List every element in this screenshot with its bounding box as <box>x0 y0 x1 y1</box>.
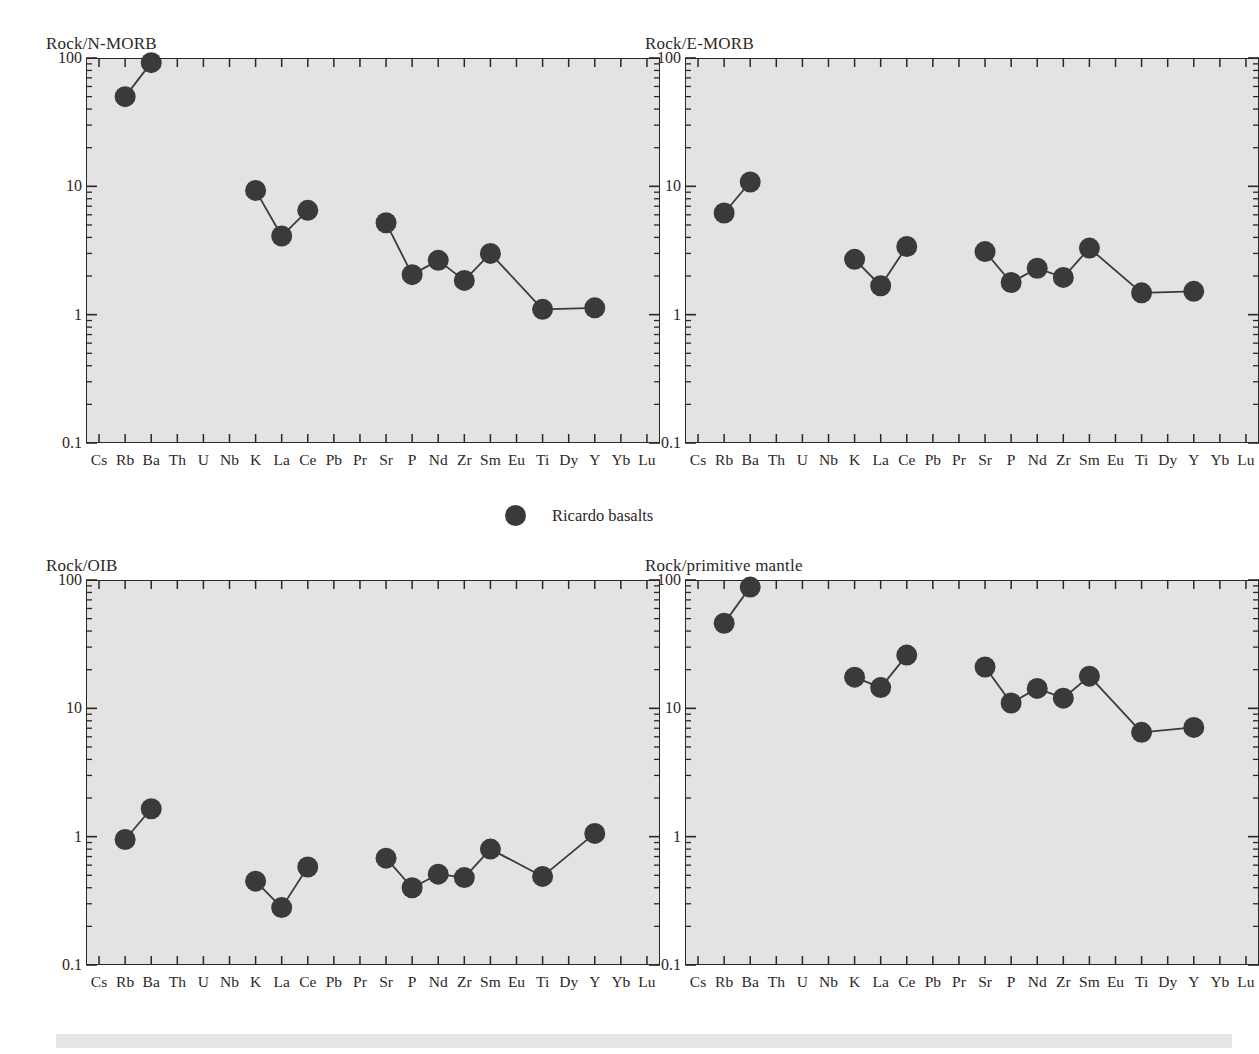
y-tick-label: 1 <box>48 306 82 324</box>
y-tick-label: 100 <box>48 49 82 67</box>
data-point <box>584 297 605 318</box>
x-tick-label-Nb: Nb <box>819 451 838 469</box>
x-tick-label-Nd: Nd <box>429 973 448 991</box>
x-tick-label-P: P <box>1007 451 1016 469</box>
data-point <box>376 848 397 869</box>
data-point <box>1079 666 1100 687</box>
data-point <box>1053 267 1074 288</box>
plot-wrap-rock-e-morb: 1001010.1CsRbBaThUNbKLaCePbPrSrPNdZrSmEu… <box>685 58 1259 443</box>
x-tick-label-Y: Y <box>589 973 600 991</box>
data-point <box>1027 678 1048 699</box>
data-point <box>297 200 318 221</box>
x-tick-label-Dy: Dy <box>559 451 578 469</box>
data-point <box>271 897 292 918</box>
data-point <box>480 839 501 860</box>
x-tick-label-U: U <box>198 451 209 469</box>
x-tick-label-Sm: Sm <box>480 451 501 469</box>
x-tick-label-Th: Th <box>768 973 785 991</box>
data-point <box>1183 717 1204 738</box>
data-point <box>454 867 475 888</box>
data-point <box>245 871 266 892</box>
data-point <box>714 202 735 223</box>
x-tick-label-La: La <box>872 451 888 469</box>
data-point <box>1183 281 1204 302</box>
data-point <box>297 857 318 878</box>
x-tick-label-Sr: Sr <box>379 451 393 469</box>
x-tick-label-Cs: Cs <box>91 451 107 469</box>
x-tick-label-La: La <box>273 451 289 469</box>
data-point <box>532 866 553 887</box>
data-point <box>115 829 136 850</box>
plot-wrap-rock-primitive-mantle: 1001010.1CsRbBaThUNbKLaCePbPrSrPNdZrSmEu… <box>685 580 1259 965</box>
data-point <box>740 172 761 193</box>
x-tick-label-Cs: Cs <box>91 973 107 991</box>
x-tick-label-Zr: Zr <box>1056 973 1071 991</box>
chart-panel-rock-primitive-mantle: Rock/primitive mantle1001010.1CsRbBaThUN… <box>645 556 1259 1011</box>
x-tick-label-Pb: Pb <box>925 451 941 469</box>
chart-panel-rock-n-morb: Rock/N-MORB1001010.1CsRbBaThUNbKLaCePbPr… <box>46 34 660 489</box>
x-tick-label-Nb: Nb <box>220 451 239 469</box>
x-tick-label-Ba: Ba <box>143 973 160 991</box>
data-point <box>454 270 475 291</box>
plot-canvas-rock-e-morb <box>685 58 1259 443</box>
data-point <box>376 212 397 233</box>
x-tick-label-La: La <box>273 973 289 991</box>
y-tick-label: 100 <box>647 49 681 67</box>
x-tick-label-Pr: Pr <box>353 973 367 991</box>
x-tick-label-Nd: Nd <box>429 451 448 469</box>
x-tick-label-Nd: Nd <box>1028 451 1047 469</box>
x-tick-label-Ce: Ce <box>299 973 316 991</box>
x-tick-label-P: P <box>1007 973 1016 991</box>
y-tick-label: 1 <box>48 828 82 846</box>
data-point <box>245 180 266 201</box>
x-tick-label-Pb: Pb <box>326 973 342 991</box>
x-tick-label-Pb: Pb <box>925 973 941 991</box>
data-point <box>740 577 761 598</box>
data-point <box>1131 722 1152 743</box>
plot-canvas-rock-primitive-mantle <box>685 580 1259 965</box>
data-point <box>714 613 735 634</box>
x-tick-label-Lu: Lu <box>1237 973 1254 991</box>
x-tick-label-K: K <box>250 451 261 469</box>
x-tick-label-Yb: Yb <box>1210 451 1229 469</box>
data-point <box>428 864 449 885</box>
data-point <box>975 241 996 262</box>
x-tick-label-Rb: Rb <box>116 973 134 991</box>
plot-wrap-rock-oib: 1001010.1CsRbBaThUNbKLaCePbPrSrPNdZrSmEu… <box>86 580 660 965</box>
x-tick-label-Dy: Dy <box>1158 451 1177 469</box>
x-tick-label-Nd: Nd <box>1028 973 1047 991</box>
x-tick-label-Ba: Ba <box>143 451 160 469</box>
x-tick-label-Ce: Ce <box>299 451 316 469</box>
data-point <box>115 86 136 107</box>
x-tick-label-Ti: Ti <box>536 973 549 991</box>
data-point <box>532 299 553 320</box>
legend-label: Ricardo basalts <box>552 506 653 526</box>
axis-ticks <box>86 58 660 443</box>
data-point <box>1079 238 1100 259</box>
data-point <box>844 667 865 688</box>
x-tick-label-P: P <box>408 451 417 469</box>
chart-panel-rock-e-morb: Rock/E-MORB1001010.1CsRbBaThUNbKLaCePbPr… <box>645 34 1259 489</box>
series-0 <box>115 798 606 918</box>
data-point <box>1027 258 1048 279</box>
x-tick-label-Sm: Sm <box>1079 451 1100 469</box>
y-tick-label: 0.1 <box>647 434 681 452</box>
x-tick-label-Pr: Pr <box>952 451 966 469</box>
series-0 <box>714 172 1205 304</box>
x-tick-label-Yb: Yb <box>1210 973 1229 991</box>
data-point <box>141 798 162 819</box>
x-tick-label-Sm: Sm <box>480 973 501 991</box>
data-point <box>584 823 605 844</box>
x-tick-label-Eu: Eu <box>1107 973 1124 991</box>
bottom-band <box>56 1034 1232 1048</box>
x-tick-label-Ti: Ti <box>1135 451 1148 469</box>
x-tick-label-Lu: Lu <box>1237 451 1254 469</box>
x-tick-label-Sm: Sm <box>1079 973 1100 991</box>
data-point <box>1053 688 1074 709</box>
x-tick-label-Cs: Cs <box>690 451 706 469</box>
y-tick-label: 10 <box>647 177 681 195</box>
plot-wrap-rock-n-morb: 1001010.1CsRbBaThUNbKLaCePbPrSrPNdZrSmEu… <box>86 58 660 443</box>
x-tick-label-Th: Th <box>169 973 186 991</box>
y-tick-label: 0.1 <box>647 956 681 974</box>
x-tick-label-Yb: Yb <box>611 973 630 991</box>
